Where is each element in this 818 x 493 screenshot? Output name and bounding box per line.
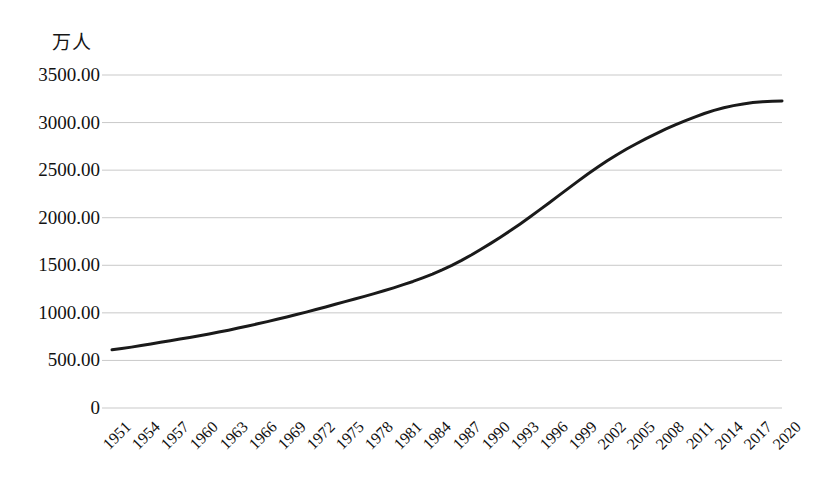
y-axis-tick-label: 1500.00 bbox=[20, 254, 100, 276]
y-axis-tick-label: 500.00 bbox=[20, 349, 100, 371]
y-axis-tick-label: 3500.00 bbox=[20, 64, 100, 86]
y-axis-tick-label: 3000.00 bbox=[20, 112, 100, 134]
y-axis-tick-label: 0 bbox=[20, 397, 100, 419]
gridlines-group bbox=[102, 75, 782, 408]
y-axis-tick-label: 1000.00 bbox=[20, 302, 100, 324]
y-axis-tick-label: 2000.00 bbox=[20, 207, 100, 229]
chart-figure: 万人 0500.001000.001500.002000.002500.0030… bbox=[0, 0, 818, 493]
y-axis-tick-label: 2500.00 bbox=[20, 159, 100, 181]
